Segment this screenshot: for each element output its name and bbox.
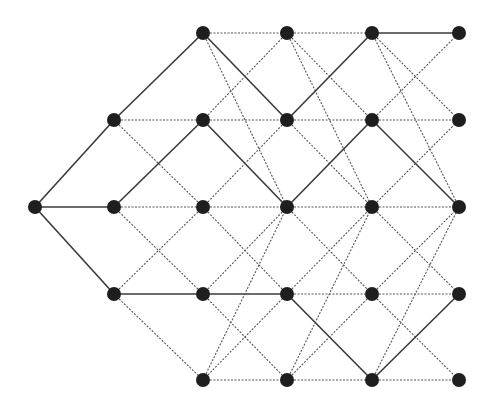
node-c4r2: [365, 200, 379, 214]
node-c2r1: [196, 113, 210, 127]
node-c3r4: [280, 373, 294, 387]
node-c3r0: [280, 26, 294, 40]
node-c0r2: [28, 200, 42, 214]
node-c2r0: [196, 26, 210, 40]
node-c3r2: [280, 200, 294, 214]
node-c5r4: [452, 373, 466, 387]
node-c2r4: [196, 373, 210, 387]
node-c1r3: [107, 287, 121, 301]
node-c5r3: [452, 287, 466, 301]
node-c1r2: [107, 200, 121, 214]
node-c4r0: [365, 26, 379, 40]
node-c3r1: [280, 113, 294, 127]
node-c2r3: [196, 287, 210, 301]
node-c4r1: [365, 113, 379, 127]
node-c5r0: [452, 26, 466, 40]
trellis-diagram: [0, 0, 492, 407]
node-c4r4: [365, 373, 379, 387]
node-c3r3: [280, 287, 294, 301]
node-c4r3: [365, 287, 379, 301]
node-c5r1: [452, 113, 466, 127]
diagram-background: [0, 0, 492, 407]
node-c2r2: [196, 200, 210, 214]
node-c1r1: [107, 113, 121, 127]
node-c5r2: [452, 200, 466, 214]
